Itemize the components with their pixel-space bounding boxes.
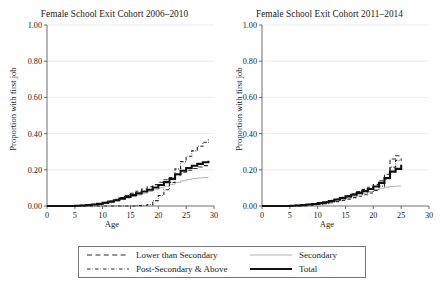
y-tick-label: 0.60 (28, 93, 42, 102)
series-line-secondary (47, 177, 208, 206)
y-tick-label: 0.40 (28, 130, 42, 139)
x-tick-label: 20 (369, 211, 377, 220)
y-tick-label: 1.00 (243, 21, 257, 30)
x-axis-label-left: Age (12, 219, 212, 229)
y-tick-label: 0.00 (28, 202, 42, 211)
legend-swatch-solid-thick-icon (249, 264, 293, 274)
y-tick-label: 0.60 (243, 93, 257, 102)
x-tick-label: 10 (314, 211, 322, 220)
legend-item-total: Total (249, 262, 365, 276)
figure-root: Female School Exit Cohort 2006–2010 Prop… (0, 0, 442, 288)
x-tick-label: 15 (126, 211, 134, 220)
x-tick-label: 30 (210, 211, 218, 220)
legend-label: Lower than Secondary (136, 250, 217, 260)
x-tick-label: 15 (341, 211, 349, 220)
y-tick-label: 0.00 (243, 202, 257, 211)
y-tick-label: 0.80 (243, 57, 257, 66)
legend-row: Lower than Secondary Secondary (79, 248, 367, 262)
legend-swatch-solid-thin-icon (249, 250, 293, 260)
x-axis-label-right: Age (227, 219, 427, 229)
x-tick-label: 25 (397, 211, 405, 220)
legend-item-lower-than-secondary: Lower than Secondary (86, 248, 248, 262)
legend-swatch-dashed-icon (86, 250, 130, 260)
y-tick-label: 0.80 (28, 57, 42, 66)
x-tick-label: 30 (425, 211, 433, 220)
x-tick-label: 10 (99, 211, 107, 220)
y-tick-label: 0.40 (243, 130, 257, 139)
y-tick-label: 0.20 (28, 166, 42, 175)
x-tick-label: 5 (288, 211, 292, 220)
series-line-lower-than-secondary (262, 155, 401, 206)
x-tick-label: 0 (260, 211, 264, 220)
chart-legend: Lower than Secondary Secondary Post-Seco… (78, 246, 366, 278)
legend-item-secondary: Secondary (249, 248, 365, 262)
series-line-total (262, 165, 401, 206)
legend-swatch-dash-dot-icon (86, 264, 130, 274)
plot-area-left: 0.000.200.400.600.801.00051015202530 (0, 0, 221, 215)
y-tick-label: 1.00 (28, 21, 42, 30)
legend-row: Post-Secondary & Above Total (79, 262, 367, 276)
plot-area-right: 0.000.200.400.600.801.00051015202530 (221, 0, 442, 215)
x-tick-label: 0 (45, 211, 49, 220)
x-tick-label: 5 (73, 211, 77, 220)
legend-label: Secondary (299, 250, 337, 260)
legend-label: Total (299, 264, 317, 274)
legend-item-post-secondary-and-above: Post-Secondary & Above (86, 262, 248, 276)
x-tick-label: 25 (182, 211, 190, 220)
y-tick-label: 0.20 (243, 166, 257, 175)
chart-panel-right: Female School Exit Cohort 2011–2014 Prop… (221, 0, 442, 240)
legend-label: Post-Secondary & Above (136, 264, 228, 274)
chart-panel-left: Female School Exit Cohort 2006–2010 Prop… (0, 0, 221, 240)
series-line-total (47, 161, 208, 206)
x-tick-label: 20 (154, 211, 162, 220)
